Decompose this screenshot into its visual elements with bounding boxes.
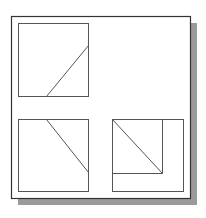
- drawing-frame: [12, 17, 191, 199]
- drawing-canvas: [0, 0, 206, 218]
